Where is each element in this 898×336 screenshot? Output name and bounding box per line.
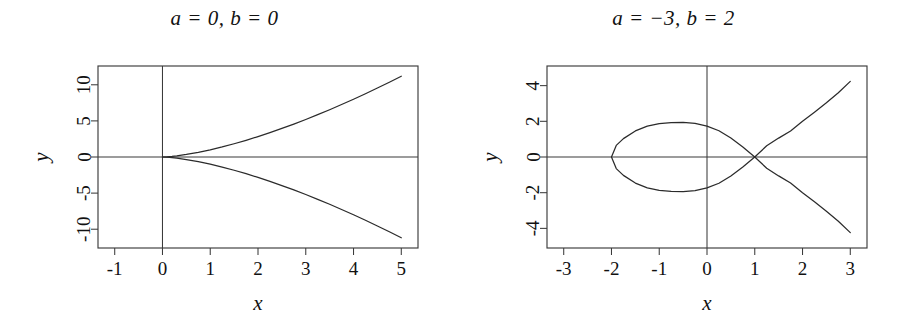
y-axis-tick-labels-left: -10-50510 bbox=[74, 75, 95, 242]
y-tick-label: -2 bbox=[523, 185, 544, 201]
x-tick-label: 3 bbox=[846, 258, 856, 279]
y-tick-label: 5 bbox=[74, 116, 95, 126]
y-tick-label: 4 bbox=[523, 80, 544, 90]
zero-axis-lines-right bbox=[547, 66, 867, 248]
x-tick-label: 0 bbox=[158, 258, 168, 279]
x-tick-label: 1 bbox=[205, 258, 215, 279]
y-tick-label: -5 bbox=[74, 185, 95, 201]
y-tick-label: -4 bbox=[523, 220, 544, 236]
x-tick-label: 2 bbox=[253, 258, 263, 279]
x-axis-tick-labels-right: -3-2-10123 bbox=[556, 258, 855, 279]
y-tick-label: 0 bbox=[523, 152, 544, 162]
x-axis-title-left: x bbox=[252, 291, 263, 315]
x-tick-label: 5 bbox=[397, 258, 407, 279]
x-axis-tick-labels-left: -1012345 bbox=[107, 258, 406, 279]
elliptic-curve-figure: a = 0, b = 0 -1012345 -10-50510 x y a = … bbox=[0, 0, 898, 336]
x-tick-label: -3 bbox=[556, 258, 572, 279]
x-axis-title-right: x bbox=[701, 291, 712, 315]
x-tick-label: 4 bbox=[349, 258, 359, 279]
plot-panel-right: a = −3, b = 2 -3-2-10123 -4-2024 x y bbox=[449, 0, 898, 336]
y-tick-label: 2 bbox=[523, 117, 544, 127]
plot-canvas-right: -3-2-10123 -4-2024 x y bbox=[449, 0, 898, 336]
curve-path bbox=[611, 81, 850, 157]
x-tick-label: 1 bbox=[750, 258, 760, 279]
x-tick-label: -1 bbox=[651, 258, 667, 279]
y-tick-label: 10 bbox=[74, 75, 95, 94]
zero-axis-lines-left bbox=[98, 66, 418, 248]
x-tick-label: -1 bbox=[107, 258, 123, 279]
curve-path bbox=[162, 76, 401, 157]
y-tick-label: -10 bbox=[74, 217, 95, 242]
y-tick-label: 0 bbox=[74, 152, 95, 162]
curve-path bbox=[162, 157, 401, 238]
x-tick-label: 2 bbox=[798, 258, 808, 279]
y-axis-title-left: y bbox=[29, 152, 53, 164]
y-axis-title-right: y bbox=[478, 152, 502, 164]
x-axis-ticks-right bbox=[564, 248, 851, 255]
x-tick-label: 3 bbox=[301, 258, 311, 279]
plot-panel-left: a = 0, b = 0 -1012345 -10-50510 x y bbox=[0, 0, 449, 336]
x-tick-label: 0 bbox=[702, 258, 712, 279]
x-axis-ticks-left bbox=[115, 248, 402, 255]
plot-canvas-left: -1012345 -10-50510 x y bbox=[0, 0, 449, 336]
curve-path bbox=[611, 157, 850, 233]
y-axis-tick-labels-right: -4-2024 bbox=[523, 80, 544, 236]
x-tick-label: -2 bbox=[604, 258, 620, 279]
